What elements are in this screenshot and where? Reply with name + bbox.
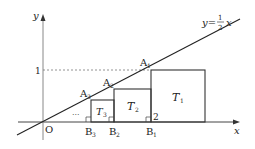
point-label-b2: B 2 xyxy=(109,126,120,138)
point-label-b1: B 1 xyxy=(146,126,157,138)
svg-text:3: 3 xyxy=(87,93,91,100)
line-y-half-x xyxy=(17,19,240,135)
square-label-t1: T 1 xyxy=(172,91,184,104)
square-label-t2: T 2 xyxy=(127,100,139,113)
y-axis-label: y xyxy=(32,10,39,21)
svg-text:2: 2 xyxy=(135,106,139,113)
ellipsis: ··· xyxy=(72,110,80,119)
x-axis-label: x xyxy=(234,125,240,136)
right-angle-mark-b2 xyxy=(109,117,114,122)
y-axis-arrow-icon xyxy=(41,14,46,21)
right-angle-mark-b1 xyxy=(146,117,151,122)
svg-text:3: 3 xyxy=(92,131,96,138)
diagram-canvas: y x O 1 2 y= 1 2 x A 1 A 2 A 3 B 1 B 2 B… xyxy=(0,0,255,149)
svg-text:1: 1 xyxy=(153,131,157,138)
point-label-a1: A 1 xyxy=(139,57,151,69)
point-label-a3: A 3 xyxy=(79,88,91,100)
svg-text:3: 3 xyxy=(103,111,107,118)
svg-text:1: 1 xyxy=(180,97,184,104)
origin-label: O xyxy=(45,124,53,135)
square-label-t3: T 3 xyxy=(96,106,107,118)
point-label-b3: B 3 xyxy=(85,126,96,138)
svg-text:2: 2 xyxy=(116,131,120,138)
x-axis-arrow-icon xyxy=(233,120,240,125)
fraction-denominator: 2 xyxy=(218,24,222,32)
svg-text:y=: y= xyxy=(201,17,216,28)
fraction-numerator: 1 xyxy=(218,14,222,22)
right-angle-mark-b3 xyxy=(86,117,91,122)
svg-text:1: 1 xyxy=(147,62,151,69)
x-tick-2-label: 2 xyxy=(153,112,159,122)
y-tick-1-label: 1 xyxy=(35,66,41,76)
svg-text:2: 2 xyxy=(110,82,114,89)
svg-text:x: x xyxy=(226,17,232,28)
line-equation-label: y= 1 2 x xyxy=(201,14,232,32)
point-label-a2: A 2 xyxy=(102,77,114,89)
